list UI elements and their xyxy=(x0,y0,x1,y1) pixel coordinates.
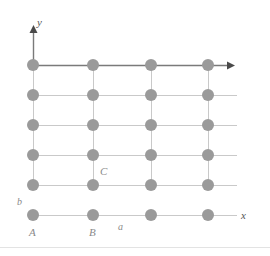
lattice-point xyxy=(202,209,214,221)
vector-a-label: a xyxy=(118,221,123,232)
lattice-point xyxy=(87,149,99,161)
lattice-figure: yxABCab xyxy=(0,0,270,256)
lattice-point xyxy=(87,209,99,221)
lattice-point xyxy=(202,59,214,71)
lattice-point xyxy=(27,149,39,161)
point-c-label: C xyxy=(100,165,108,177)
lattice-point xyxy=(87,179,99,191)
lattice-point xyxy=(145,119,157,131)
lattice-point xyxy=(202,119,214,131)
lattice-point xyxy=(87,89,99,101)
lattice-point xyxy=(27,59,39,71)
lattice-point xyxy=(27,209,39,221)
point-b-label: B xyxy=(89,226,96,238)
lattice-point xyxy=(87,59,99,71)
vector-b-label: b xyxy=(17,196,22,207)
x-axis-label: x xyxy=(240,209,246,221)
figure-background xyxy=(0,0,270,256)
lattice-point xyxy=(202,179,214,191)
lattice-point xyxy=(27,119,39,131)
point-a-label: A xyxy=(28,226,36,238)
lattice-canvas: yxABCab xyxy=(0,0,270,256)
lattice-point xyxy=(202,149,214,161)
lattice-point xyxy=(145,209,157,221)
lattice-point xyxy=(202,89,214,101)
y-axis-label: y xyxy=(36,16,42,28)
lattice-point xyxy=(145,59,157,71)
lattice-point xyxy=(145,89,157,101)
lattice-point xyxy=(145,179,157,191)
lattice-point xyxy=(27,89,39,101)
lattice-point xyxy=(145,149,157,161)
lattice-point xyxy=(27,179,39,191)
lattice-point xyxy=(87,119,99,131)
